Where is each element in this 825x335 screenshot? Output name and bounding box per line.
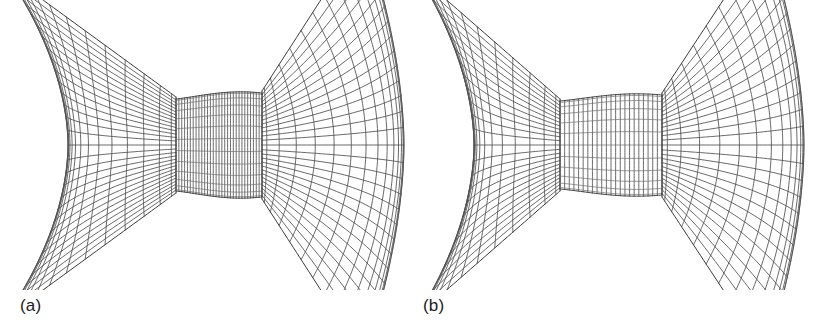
mesh-line: [425, 188, 560, 290]
mesh-svg-a: [0, 0, 410, 290]
mesh-line: [418, 191, 560, 290]
mesh-line: [262, 162, 399, 210]
mesh-line: [13, 190, 176, 290]
mesh-line: [262, 80, 399, 128]
mesh-line: [662, 60, 797, 123]
mesh-line: [425, 0, 560, 102]
mesh-line: [262, 65, 397, 124]
mesh-panel-b: [412, 0, 825, 290]
mesh-line: [662, 178, 787, 277]
mesh-svg-b: [412, 0, 825, 290]
mesh-line: [262, 6, 385, 109]
mesh-line: [428, 0, 475, 290]
mesh-line: [262, 181, 385, 284]
mesh-line: [262, 111, 403, 136]
mesh-line: [662, 0, 766, 93]
mesh-line: [262, 174, 392, 255]
mesh-line: [419, 0, 474, 290]
mesh-line: [418, 0, 474, 290]
mesh-line: [662, 0, 780, 104]
mesh-region-left-lobe: [418, 0, 560, 290]
mesh-line: [36, 25, 176, 112]
mesh-line: [262, 35, 392, 116]
mesh-region-throat: [560, 94, 662, 196]
mesh-line: [19, 187, 176, 290]
mesh-line: [262, 154, 403, 179]
panel-label-a: (a): [20, 296, 41, 316]
mesh-line: [423, 0, 475, 290]
mesh-region-right-lobe: [262, 0, 404, 290]
mesh-line: [662, 0, 771, 97]
mesh-line: [19, 0, 176, 103]
mesh-line: [262, 166, 397, 225]
mesh-line: [662, 167, 797, 230]
mesh-line: [262, 0, 377, 102]
mesh-line: [418, 0, 560, 99]
mesh-line: [36, 178, 176, 265]
mesh-panel-a: [0, 0, 410, 290]
mesh-region-right-lobe: [662, 0, 804, 290]
panel-label-b: (b): [423, 296, 444, 316]
mesh-line: [16, 0, 70, 290]
mesh-line: [662, 197, 766, 290]
mesh-line: [662, 186, 780, 290]
mesh-line: [662, 193, 771, 290]
mesh-line: [262, 188, 377, 290]
mesh-line: [13, 0, 176, 100]
figure-root: (a) (b): [0, 0, 825, 335]
mesh-line: [662, 13, 787, 112]
mesh-region-left-lobe: [6, 0, 176, 290]
mesh-line: [418, 0, 474, 290]
mesh-line: [10, 0, 68, 290]
mesh-region-throat: [176, 92, 262, 198]
